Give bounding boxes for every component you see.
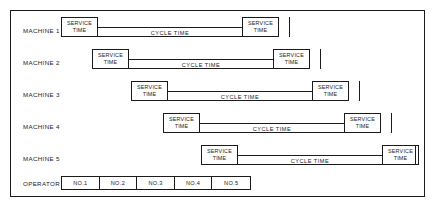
service-time-end-line2-3: TIME xyxy=(324,91,338,97)
timeline-end-tick-2 xyxy=(320,49,321,69)
machine-row-1: MACHINE 1 SERVICE TIME CYCLE TIME SERVIC… xyxy=(11,15,424,45)
service-time-end-block-5: SERVICE TIME xyxy=(382,145,419,165)
service-time-end-block-3: SERVICE TIME xyxy=(312,81,349,101)
timeline-end-tick-3 xyxy=(359,81,360,101)
machine-row-4: MACHINE 4 SERVICE TIME CYCLE TIME SERVIC… xyxy=(11,111,424,141)
service-time-end-line2-5: TIME xyxy=(394,155,408,161)
cycle-time-label-3: CYCLE TIME xyxy=(221,94,259,100)
operator-cell-1: NO.1 xyxy=(62,177,100,189)
service-time-start-line2-3: TIME xyxy=(143,91,157,97)
machine-label-5: MACHINE 5 xyxy=(23,155,60,162)
service-time-end-line2-1: TIME xyxy=(254,27,268,33)
cycle-time-label-2: CYCLE TIME xyxy=(182,62,220,68)
cycle-time-block-2: CYCLE TIME xyxy=(129,59,273,69)
service-time-start-block-5: SERVICE TIME xyxy=(201,145,238,165)
service-time-start-line2-5: TIME xyxy=(213,155,227,161)
cycle-time-block-5: CYCLE TIME xyxy=(238,155,382,165)
service-time-end-line1-1: SERVICE xyxy=(248,20,273,26)
machine-timeline-2: SERVICE TIME CYCLE TIME SERVICE TIME xyxy=(92,47,310,77)
service-time-start-line2-2: TIME xyxy=(104,59,118,65)
machine-label-3: MACHINE 3 xyxy=(23,91,60,98)
operator-cell-2: NO.2 xyxy=(100,177,138,189)
machine-row-3: MACHINE 3 SERVICE TIME CYCLE TIME SERVIC… xyxy=(11,79,424,109)
service-time-start-block-4: SERVICE TIME xyxy=(163,113,200,133)
machine-timeline-3: SERVICE TIME CYCLE TIME SERVICE TIME xyxy=(131,79,349,109)
machine-timeline-1: SERVICE TIME CYCLE TIME SERVICE TIME xyxy=(61,15,279,45)
cycle-time-block-1: CYCLE TIME xyxy=(98,27,242,37)
cycle-time-block-3: CYCLE TIME xyxy=(168,91,312,101)
service-time-start-line1-1: SERVICE xyxy=(67,20,92,26)
service-time-end-block-4: SERVICE TIME xyxy=(344,113,381,133)
service-time-start-block-3: SERVICE TIME xyxy=(131,81,168,101)
operator-label: OPERATOR xyxy=(23,180,60,187)
timeline-end-tick-1 xyxy=(289,17,290,37)
cycle-time-label-1: CYCLE TIME xyxy=(151,30,189,36)
operator-row: OPERATOR NO.1 NO.2 NO.3 NO.4 NO.5 xyxy=(11,172,424,194)
service-time-start-line1-5: SERVICE xyxy=(207,148,232,154)
service-time-end-line1-3: SERVICE xyxy=(318,84,343,90)
operator-cell-4: NO.4 xyxy=(175,177,213,189)
operator-cells: NO.1 NO.2 NO.3 NO.4 NO.5 xyxy=(61,176,251,190)
machine-row-5: MACHINE 5 SERVICE TIME CYCLE TIME SERVIC… xyxy=(11,143,424,173)
man-machine-chart: MACHINE 1 SERVICE TIME CYCLE TIME SERVIC… xyxy=(0,0,437,208)
service-time-end-line2-2: TIME xyxy=(285,59,299,65)
chart-frame: MACHINE 1 SERVICE TIME CYCLE TIME SERVIC… xyxy=(10,10,425,197)
service-time-end-block-1: SERVICE TIME xyxy=(242,17,279,37)
operator-cell-5: NO.5 xyxy=(212,177,250,189)
service-time-end-line1-4: SERVICE xyxy=(350,116,375,122)
timeline-end-tick-5 xyxy=(415,145,416,165)
timeline-end-tick-4 xyxy=(391,113,392,133)
machine-timeline-5: SERVICE TIME CYCLE TIME SERVICE TIME xyxy=(201,143,419,173)
machine-label-1: MACHINE 1 xyxy=(23,27,60,34)
cycle-time-label-5: CYCLE TIME xyxy=(291,158,329,164)
machine-label-4: MACHINE 4 xyxy=(23,123,60,130)
service-time-end-line2-4: TIME xyxy=(356,123,370,129)
service-time-start-line1-2: SERVICE xyxy=(98,52,123,58)
service-time-start-line2-1: TIME xyxy=(73,27,87,33)
cycle-time-label-4: CYCLE TIME xyxy=(253,126,291,132)
operator-cell-3: NO.3 xyxy=(137,177,175,189)
service-time-end-line1-5: SERVICE xyxy=(388,148,413,154)
service-time-start-line1-4: SERVICE xyxy=(169,116,194,122)
service-time-end-line1-2: SERVICE xyxy=(279,52,304,58)
service-time-start-line2-4: TIME xyxy=(175,123,189,129)
machine-label-2: MACHINE 2 xyxy=(23,59,60,66)
machine-row-2: MACHINE 2 SERVICE TIME CYCLE TIME SERVIC… xyxy=(11,47,424,77)
service-time-start-block-1: SERVICE TIME xyxy=(61,17,98,37)
service-time-end-block-2: SERVICE TIME xyxy=(273,49,310,69)
service-time-start-block-2: SERVICE TIME xyxy=(92,49,129,69)
machine-timeline-4: SERVICE TIME CYCLE TIME SERVICE TIME xyxy=(163,111,381,141)
service-time-start-line1-3: SERVICE xyxy=(137,84,162,90)
cycle-time-block-4: CYCLE TIME xyxy=(200,123,344,133)
